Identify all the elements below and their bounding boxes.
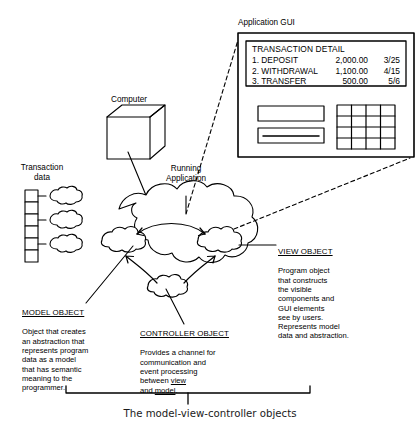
application-gui-title: Application GUI xyxy=(238,18,295,27)
running-application-label-line2: Application xyxy=(152,174,220,184)
controller-body-part2: and xyxy=(140,386,155,395)
model-object-body: Object that creates an abstraction that … xyxy=(22,327,134,392)
transaction-data-label-line2: data xyxy=(7,173,77,183)
controller-body-model-term: model xyxy=(155,386,176,395)
transaction-data-label-line1: Transaction xyxy=(7,163,77,173)
transaction-row-3-date: 5/6 xyxy=(370,76,400,86)
model-object-heading: MODEL OBJECT xyxy=(22,308,134,317)
mvc-diagram-page: Computer Transaction data Running Applic… xyxy=(0,0,420,438)
diagram-caption: The model-view-controller objects xyxy=(0,408,420,419)
view-object-body: Program object that constructs the visib… xyxy=(278,266,400,340)
controller-model-arrow xyxy=(126,256,157,283)
view-object-heading: VIEW OBJECT xyxy=(278,247,400,256)
view-object-callout: VIEW OBJECT Program object that construc… xyxy=(278,238,400,350)
transaction-data-icon xyxy=(25,186,82,262)
transaction-row-1-amount: 2,000.00 xyxy=(308,55,368,65)
transaction-row-1-label: 1. DEPOSIT xyxy=(252,55,298,65)
transaction-row-2-date: 4/15 xyxy=(370,66,400,76)
controller-object-cloud xyxy=(147,275,187,298)
transaction-row-1-date: 3/25 xyxy=(370,55,400,65)
model-object-callout: MODEL OBJECT Object that creates an abst… xyxy=(22,299,134,402)
computer-cube-icon xyxy=(107,105,165,159)
computer-label: Computer xyxy=(96,95,162,105)
transaction-row-3-label: 3. TRANSFER xyxy=(252,76,306,86)
running-application-label-line1: Running xyxy=(152,164,220,174)
controller-body-view-term: view xyxy=(171,376,186,385)
model-object-connector xyxy=(86,246,133,303)
keypad-grid xyxy=(337,105,395,149)
transaction-row-3-amount: 500.00 xyxy=(308,76,368,86)
controller-object-callout: CONTROLLER OBJECT Provides a channel for… xyxy=(140,320,260,404)
controller-object-heading: CONTROLLER OBJECT xyxy=(140,329,260,338)
transaction-row-2-amount: 1,100.00 xyxy=(308,66,368,76)
running-application-cloud xyxy=(119,181,258,263)
controller-object-body: Provides a channel for communication and… xyxy=(140,348,260,394)
controller-body-part3: . xyxy=(175,386,177,395)
transaction-detail-title: TRANSACTION DETAIL xyxy=(252,44,345,54)
